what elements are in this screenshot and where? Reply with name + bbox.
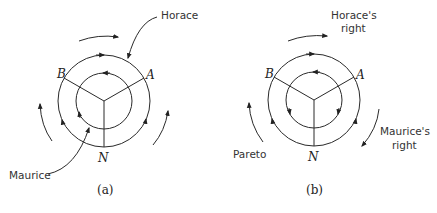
panel-a-sublabel: (a): [97, 183, 114, 197]
figure: B A N Horace Maurice (a) B A N Horace's …: [0, 0, 437, 213]
panel-b: B A N Horace's right Maurice's right Par…: [233, 9, 430, 197]
pareto-label: Pareto: [233, 148, 266, 160]
panel-a: B A N Horace Maurice (a): [9, 9, 198, 197]
maurices-right-label-line1: Maurice's: [380, 125, 430, 137]
horace-label: Horace: [161, 9, 198, 21]
vertex-n-label: N: [97, 151, 109, 165]
inner-left-arrow-icon: [79, 112, 80, 118]
top-curved-arrow-icon: [79, 36, 118, 41]
horaces-right-label-line2: right: [341, 22, 366, 34]
maurice-pointer-arrow-icon: [48, 128, 89, 174]
vertex-b-label: B: [56, 67, 66, 81]
maurices-right-label-line2: right: [392, 139, 417, 151]
maurice-label: Maurice: [9, 169, 51, 181]
left-curved-arrow-icon: [40, 104, 52, 141]
left-curved-arrow-icon: [249, 103, 263, 142]
right-curved-arrow-icon: [153, 111, 168, 145]
outer-right-arrow-icon: [145, 119, 146, 124]
vertex-a-label: A: [145, 68, 155, 82]
top-curved-arrow-icon: [288, 36, 327, 41]
horaces-right-label-line1: Horace's: [331, 9, 377, 21]
vertex-b-label: B: [264, 67, 274, 81]
right-curved-arrow-icon: [362, 109, 379, 146]
vertex-n-label: N: [307, 150, 319, 164]
vertex-a-label: A: [355, 68, 365, 82]
horace-pointer-arrow-icon: [128, 17, 157, 58]
panel-b-sublabel: (b): [306, 183, 323, 197]
